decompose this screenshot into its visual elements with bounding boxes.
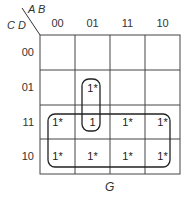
cell-11-00: 1* xyxy=(40,116,75,128)
cell-10-01: 1* xyxy=(75,150,110,162)
col-header: 11 xyxy=(110,17,145,29)
kmap-grid xyxy=(0,0,186,202)
cell-01-01: 1* xyxy=(75,82,110,94)
cell-10-00: 1* xyxy=(40,150,75,162)
cell-10-11: 1* xyxy=(110,150,145,162)
col-header: 10 xyxy=(145,17,180,29)
col-var-label: A B xyxy=(28,3,45,15)
cell-11-10: 1* xyxy=(145,116,180,128)
col-header: 01 xyxy=(75,17,110,29)
row-header: 10 xyxy=(14,150,34,162)
cell-11-11: 1* xyxy=(110,116,145,128)
row-header: 01 xyxy=(14,81,34,93)
row-header: 11 xyxy=(14,116,34,128)
col-header: 00 xyxy=(40,17,75,29)
row-header: 00 xyxy=(14,46,34,58)
cell-11-01: 1 xyxy=(75,116,110,128)
row-var-label: C D xyxy=(7,19,26,31)
cell-10-10: 1* xyxy=(145,150,180,162)
map-caption: G xyxy=(105,180,114,194)
